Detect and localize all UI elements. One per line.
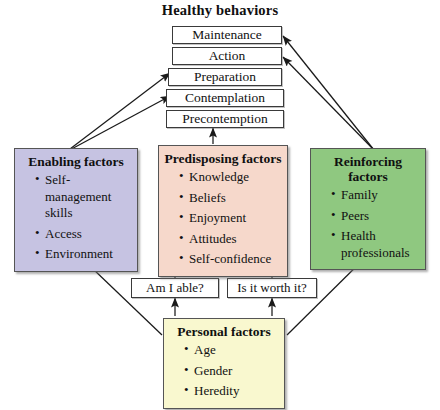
list-item: Attitudes [179,231,283,248]
arrow-enabling-to-preparation [66,73,170,152]
list-item: Family [331,187,421,204]
list-item: Self-confidence [179,251,283,268]
factor-box-enabling-heading: Enabling factors [19,154,133,169]
stage-box-preparation: Preparation [168,68,282,86]
question-box-am-i-able: Am I able? [131,278,219,298]
list-item: Beliefs [179,190,283,207]
stage-box-action: Action [172,47,282,65]
list-item: Environment [35,246,133,263]
arrow-enabling-to-contemplation [66,96,170,152]
stage-box-contemplation: Contemplation [166,89,284,107]
factor-box-enabling: Enabling factors Self-management skills … [14,148,138,272]
factor-box-reinforcing-heading: Reinforcing factors [315,154,421,184]
arrow-reinforcing-to-maintenance [283,36,374,150]
list-item: Knowledge [179,169,283,186]
factor-box-personal-list: Age Gender Heredity [168,342,280,400]
list-item: Health professionals [331,228,421,261]
list-item: Heredity [184,383,280,400]
page-title: Healthy behaviors [0,2,440,19]
factor-box-personal: Personal factors Age Gender Heredity [163,318,285,409]
arrow-reinforcing-to-action [283,57,374,150]
diagram-canvas: Healthy behaviors Maintenance Action Pre… [0,0,440,410]
factor-box-predisposing-list: Knowledge Beliefs Enjoyment Attitudes Se… [163,169,283,268]
factor-box-predisposing-heading: Predisposing factors [163,151,283,166]
list-item: Access [35,226,133,243]
list-item: Age [184,342,280,359]
stage-box-precontemption: Precontemption [166,110,284,128]
list-item: Peers [331,208,421,225]
list-item: Self-management skills [35,172,133,222]
list-item: Enjoyment [179,210,283,227]
factor-box-reinforcing: Reinforcing factors Family Peers Health … [310,148,426,270]
factor-box-predisposing: Predisposing factors Knowledge Beliefs E… [158,145,288,277]
factor-box-personal-heading: Personal factors [168,324,280,339]
factor-box-enabling-list: Self-management skills Access Environmen… [19,172,133,263]
list-item: Gender [184,363,280,380]
question-box-is-it-worth-it: Is it worth it? [227,278,317,298]
stage-box-maintenance: Maintenance [172,26,282,44]
factor-box-reinforcing-list: Family Peers Health professionals [315,187,421,261]
